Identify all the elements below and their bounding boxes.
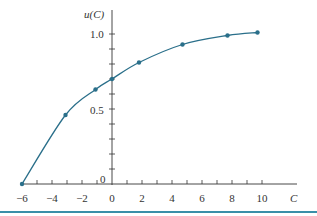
x-tick-label: 4 <box>169 192 175 204</box>
x-tick-label: 10 <box>257 192 269 204</box>
data-point <box>255 30 259 34</box>
data-point <box>225 33 229 37</box>
data-point <box>20 182 24 186</box>
data-point <box>110 77 114 81</box>
x-tick-label: −6 <box>16 192 28 204</box>
bottom-rule <box>0 211 317 213</box>
utility-curve <box>22 33 258 185</box>
x-tick-labels: −6−4−20246810 <box>16 192 268 204</box>
data-point <box>180 42 184 46</box>
y-tick-label-1: 1.0 <box>90 28 104 40</box>
x-tick-label: −4 <box>46 192 58 204</box>
y-axis-label: u(C) <box>84 8 105 21</box>
data-points <box>20 30 260 186</box>
x-tick-label: 6 <box>199 192 205 204</box>
utility-chart: −6−4−20246810 1.0 0.5 0 u(C) C <box>0 0 317 216</box>
y-tick-label-0: 0 <box>100 173 106 185</box>
x-axis-label: C <box>290 192 298 204</box>
data-point <box>63 113 67 117</box>
x-tick-label: 0 <box>109 192 115 204</box>
x-tick-label: −2 <box>76 192 88 204</box>
x-ticks <box>37 180 262 184</box>
data-point <box>93 87 97 91</box>
y-tick-label-0.5: 0.5 <box>90 104 104 116</box>
x-tick-label: 8 <box>229 192 235 204</box>
x-tick-label: 2 <box>139 192 145 204</box>
data-point <box>137 60 141 64</box>
